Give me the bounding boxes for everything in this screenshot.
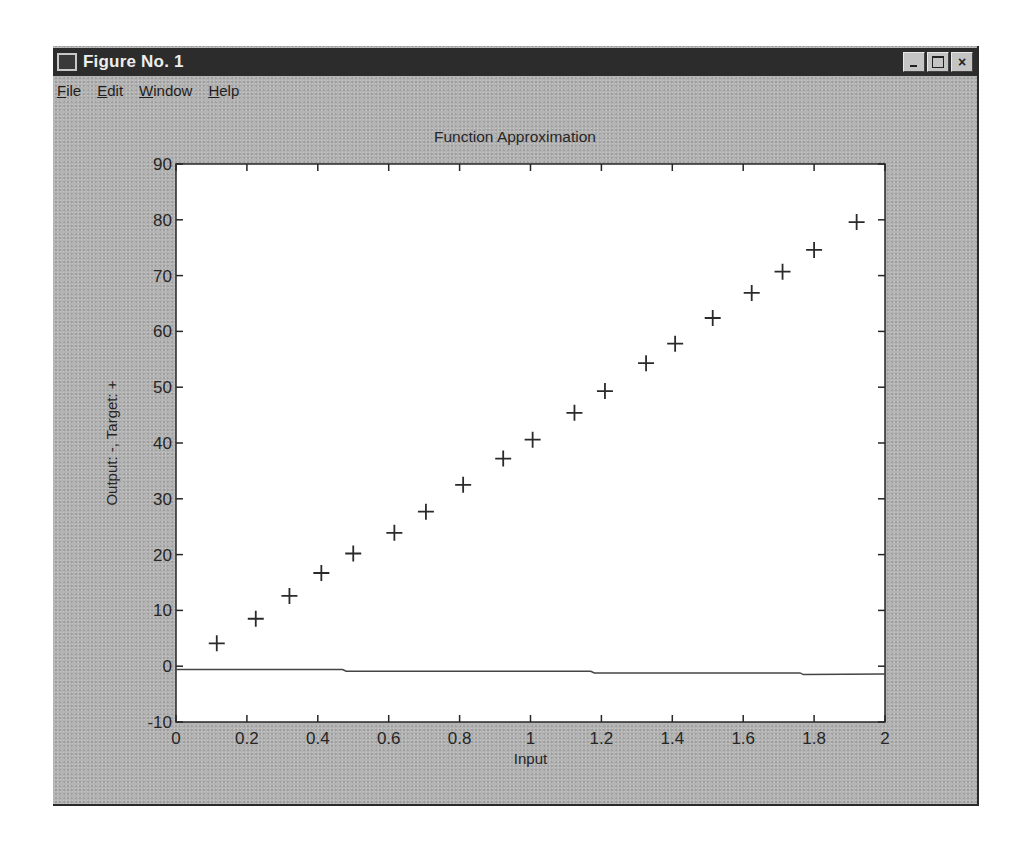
x-tick-label: 0.2 xyxy=(235,729,259,748)
y-axis-label: Output: -, Target: + xyxy=(103,380,120,505)
y-tick-label: 20 xyxy=(153,546,172,565)
y-tick-label: -10 xyxy=(147,713,172,732)
y-tick-label: 50 xyxy=(153,378,172,397)
x-tick-label: 1.8 xyxy=(802,729,826,748)
figure-window: Figure No. 1 × File Edit Window Help Fun… xyxy=(53,46,979,806)
y-tick-label: 0 xyxy=(163,657,172,676)
x-tick-label: 1.2 xyxy=(590,729,614,748)
plot-area xyxy=(176,164,885,722)
plot-canvas[interactable]: 00.20.40.60.811.21.41.61.82-100102030405… xyxy=(53,46,977,804)
x-tick-label: 1 xyxy=(526,729,535,748)
x-tick-label: 0.6 xyxy=(377,729,401,748)
x-tick-label: 2 xyxy=(880,729,889,748)
x-tick-label: 0.4 xyxy=(306,729,330,748)
axes: 00.20.40.60.811.21.41.61.82-100102030405… xyxy=(103,155,890,767)
y-tick-label: 10 xyxy=(153,601,172,620)
y-tick-label: 30 xyxy=(153,490,172,509)
x-axis-label: Input xyxy=(514,750,548,767)
y-tick-label: 90 xyxy=(153,155,172,174)
y-tick-label: 60 xyxy=(153,322,172,341)
x-tick-label: 0 xyxy=(171,729,180,748)
x-tick-label: 0.8 xyxy=(448,729,472,748)
y-tick-label: 40 xyxy=(153,434,172,453)
x-tick-label: 1.4 xyxy=(660,729,684,748)
y-tick-label: 70 xyxy=(153,267,172,286)
y-tick-label: 80 xyxy=(153,211,172,230)
x-tick-label: 1.6 xyxy=(731,729,755,748)
